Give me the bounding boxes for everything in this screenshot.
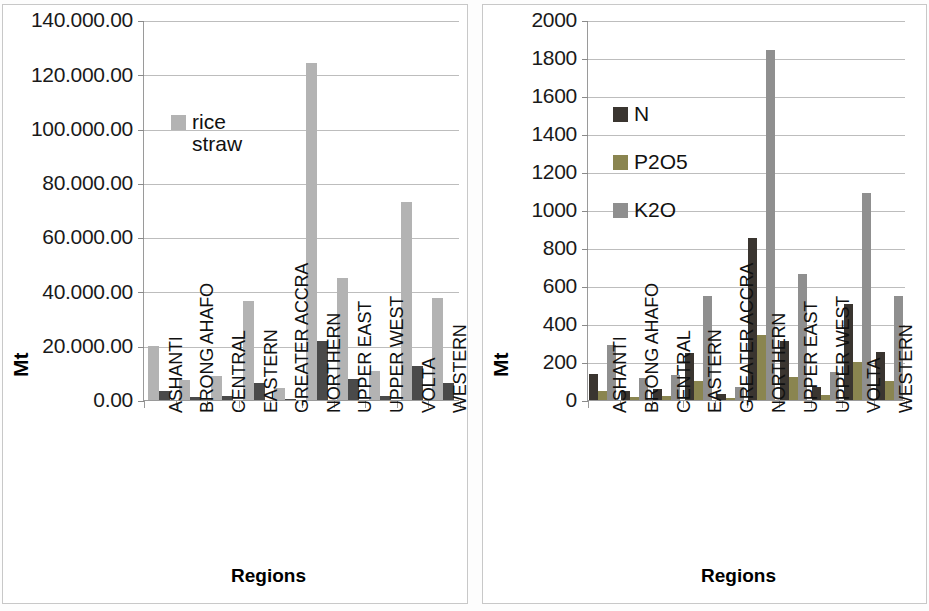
- x-axis-category-label: CENTRAL: [229, 330, 250, 413]
- x-axis-category-label: CENTRAL: [674, 330, 695, 413]
- legend-label: N: [634, 103, 649, 125]
- x-axis-category-label: UPPER WEST: [387, 296, 408, 413]
- legend-item: N: [613, 103, 649, 125]
- x-axis-category-label: ASHANTI: [610, 336, 631, 413]
- x-axis-category-label: EASTERN: [261, 329, 282, 413]
- legend-swatch-icon: [613, 107, 628, 122]
- x-axis-category-label: NORTHERN: [324, 313, 345, 413]
- legend-label: P2O5: [634, 151, 688, 173]
- legend-item: rice straw: [171, 111, 242, 155]
- x-axis-category-label: NORTHERN: [769, 313, 790, 413]
- legend-item: P2O5: [613, 151, 688, 173]
- x-axis-category-label: EASTERN: [705, 329, 726, 413]
- chart-panel-left: 140.000.00120.000.00100.000.0080.000.006…: [2, 4, 468, 604]
- x-axis-category-label: BRONG AHAFO: [197, 283, 218, 413]
- legend-swatch-icon: [613, 203, 628, 218]
- y-axis-title: Mt: [489, 353, 513, 378]
- legend-item: K2O: [613, 199, 676, 221]
- x-axis-category-label: VOLTA: [419, 358, 440, 413]
- legend-swatch-icon: [171, 115, 186, 130]
- legend-swatch-icon: [613, 155, 628, 170]
- figure-root: 140.000.00120.000.00100.000.0080.000.006…: [0, 0, 929, 611]
- x-axis-category-label: WESTERN: [896, 324, 917, 413]
- x-axis-category-label: GREATER ACCRA: [737, 263, 758, 413]
- legend-label: rice straw: [192, 111, 242, 155]
- x-axis-category-label: UPPER EAST: [801, 301, 822, 413]
- x-axis-category-labels: ASHANTIBRONG AHAFOCENTRALEASTERNGREATER …: [3, 5, 467, 603]
- x-axis-title: Regions: [231, 565, 306, 587]
- legend-label: K2O: [634, 199, 676, 221]
- npk-bar-chart: 2000180016001400120010008006004002000ASH…: [483, 5, 926, 603]
- x-axis-category-labels: ASHANTIBRONG AHAFOCENTRALEASTERNGREATER …: [483, 5, 926, 603]
- x-axis-category-label: UPPER WEST: [833, 296, 854, 413]
- chart-panel-right: 2000180016001400120010008006004002000ASH…: [482, 4, 927, 604]
- x-axis-category-label: GREATER ACCRA: [292, 263, 313, 413]
- x-axis-category-label: ASHANTI: [166, 336, 187, 413]
- x-axis-category-label: BRONG AHAFO: [642, 283, 663, 413]
- y-axis-title: Mt: [9, 353, 33, 378]
- x-axis-category-label: WESTERN: [450, 324, 471, 413]
- x-axis-category-label: UPPER EAST: [355, 301, 376, 413]
- rice-straw-bar-chart: 140.000.00120.000.00100.000.0080.000.006…: [3, 5, 467, 603]
- x-axis-category-label: VOLTA: [864, 358, 885, 413]
- x-axis-title: Regions: [701, 565, 776, 587]
